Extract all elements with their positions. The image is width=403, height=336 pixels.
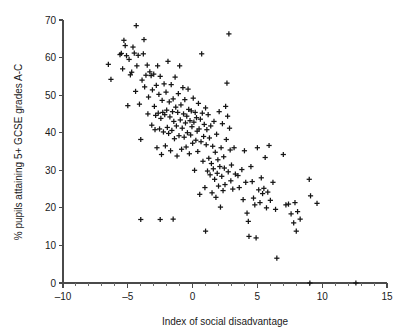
data-point (256, 187, 261, 192)
data-point (150, 87, 155, 92)
data-point (163, 143, 168, 148)
data-point (283, 202, 288, 207)
data-point (202, 185, 207, 190)
data-point (211, 119, 216, 124)
data-point (246, 234, 251, 239)
data-point (214, 132, 219, 137)
data-point (268, 198, 273, 203)
data-point (178, 102, 183, 107)
data-point (189, 124, 194, 129)
data-point (257, 200, 262, 205)
data-point (179, 147, 184, 152)
x-axis-title: Index of social disadvantage (162, 316, 289, 327)
y-tick-label: 30 (45, 165, 57, 176)
data-point (243, 180, 248, 185)
data-point (219, 174, 224, 179)
data-point (292, 200, 297, 205)
data-point (180, 85, 185, 90)
data-point (215, 171, 220, 176)
data-point (152, 104, 157, 109)
data-point (220, 188, 225, 193)
data-point (229, 162, 234, 167)
data-point (184, 144, 189, 149)
data-point (207, 135, 212, 140)
axes-group (63, 20, 387, 283)
data-point (126, 57, 131, 62)
data-point (259, 175, 264, 180)
data-point (209, 190, 214, 195)
data-point (182, 97, 187, 102)
data-point (182, 135, 187, 140)
data-point (222, 182, 227, 187)
data-point (202, 122, 207, 127)
data-point (154, 83, 159, 88)
data-point (158, 116, 163, 121)
data-point (142, 84, 147, 89)
data-point (157, 126, 162, 131)
data-point (200, 159, 205, 164)
data-point (165, 125, 170, 130)
data-point (168, 148, 173, 153)
data-point (156, 92, 161, 97)
data-point (203, 105, 208, 110)
data-point (288, 211, 293, 216)
data-point (177, 63, 182, 68)
y-tick-label: 50 (45, 90, 57, 101)
data-point (215, 157, 220, 162)
data-point (167, 99, 172, 104)
data-point (134, 23, 139, 28)
data-point (220, 121, 225, 126)
data-point (130, 44, 135, 49)
data-point (273, 207, 278, 212)
data-point (307, 280, 312, 285)
data-point (241, 197, 246, 202)
y-tick-label: 10 (45, 240, 57, 251)
data-point (145, 111, 150, 116)
data-point (152, 127, 157, 132)
y-tick-label: 40 (45, 127, 57, 138)
data-point (169, 128, 174, 133)
x-axis-ticks (63, 283, 387, 288)
data-point (261, 186, 266, 191)
data-point (106, 62, 111, 67)
y-tick-label: 60 (45, 52, 57, 63)
data-point (228, 178, 233, 183)
data-point (155, 63, 160, 68)
data-point (251, 195, 256, 200)
data-point (250, 179, 255, 184)
data-point (218, 205, 223, 210)
data-point (230, 186, 235, 191)
data-point (161, 129, 166, 134)
data-point (221, 154, 226, 159)
data-point (191, 96, 196, 101)
data-point (180, 126, 185, 131)
data-point (192, 168, 197, 173)
data-point (213, 195, 218, 200)
y-tick-label: 70 (45, 15, 57, 26)
y-tick-label: 20 (45, 202, 57, 213)
data-point (244, 211, 249, 216)
scatter-data-points (106, 23, 359, 286)
data-point (123, 43, 128, 48)
data-point (265, 189, 270, 194)
data-point (138, 217, 143, 222)
data-point (206, 112, 211, 117)
data-point (137, 102, 142, 107)
data-point (239, 167, 244, 172)
data-point (222, 165, 227, 170)
data-point (209, 161, 214, 166)
data-point (171, 119, 176, 124)
data-point (225, 114, 230, 119)
data-point (175, 110, 180, 115)
data-point (170, 109, 175, 114)
data-point (246, 219, 251, 224)
scatter-plot-figure: 010203040506070 –10–5051015 Index of soc… (0, 0, 403, 336)
data-point (158, 74, 163, 79)
data-point (264, 205, 269, 210)
data-point (298, 217, 303, 222)
data-point (204, 142, 209, 147)
x-tick-label: –10 (55, 291, 72, 302)
data-point (210, 144, 215, 149)
data-point (141, 37, 146, 42)
data-point (281, 152, 286, 157)
